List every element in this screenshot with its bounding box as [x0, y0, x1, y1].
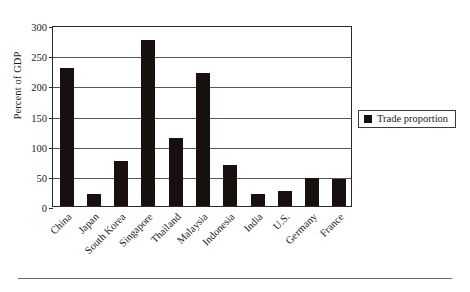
chart-legend: Trade proportion — [358, 110, 456, 128]
y-axis-title: Percent of GDP — [12, 31, 23, 141]
legend-label-trade-proportion: Trade proportion — [377, 113, 448, 124]
chart-figure: Percent of GDP 050100150200250300 ChinaJ… — [0, 0, 470, 292]
y-tick-mark — [49, 27, 53, 28]
bar — [169, 138, 183, 206]
y-tick-mark — [49, 87, 53, 88]
bar — [251, 194, 265, 206]
y-tick-mark — [49, 57, 53, 58]
bar — [278, 191, 292, 206]
bottom-divider — [18, 278, 452, 279]
y-tick-mark — [49, 118, 53, 119]
bar — [141, 40, 155, 206]
gridline — [53, 57, 351, 58]
y-tick-label: 100 — [31, 142, 47, 153]
bar — [60, 68, 74, 206]
y-tick-label: 300 — [31, 22, 47, 33]
bar — [305, 178, 319, 206]
y-tick-label: 150 — [31, 112, 47, 123]
bar — [223, 165, 237, 206]
bar — [332, 179, 346, 206]
y-tick-mark — [49, 148, 53, 149]
y-tick-mark — [49, 178, 53, 179]
y-tick-mark — [49, 208, 53, 209]
y-tick-label: 200 — [31, 82, 47, 93]
bar — [196, 73, 210, 206]
y-tick-label: 50 — [37, 172, 48, 183]
plot-area: 050100150200250300 — [52, 26, 352, 207]
y-tick-label: 250 — [31, 52, 47, 63]
bar — [87, 194, 101, 206]
bar — [114, 161, 128, 206]
legend-square-marker — [364, 115, 372, 123]
y-tick-label: 0 — [42, 203, 47, 214]
